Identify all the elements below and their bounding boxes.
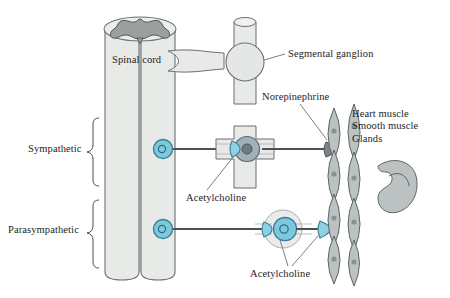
sympathetic-chain-tube-cap bbox=[234, 18, 256, 27]
label-norepinephrine: Norepinephrine bbox=[262, 91, 329, 103]
gland-organ-group bbox=[378, 161, 417, 213]
nerve-root-group bbox=[168, 50, 224, 72]
nerve-root-sheath bbox=[168, 50, 224, 72]
parasympathetic-preganglionic-nucleus bbox=[158, 225, 165, 232]
target-tissue-item: Smooth muscle bbox=[352, 120, 418, 132]
sympathetic-preganglionic-nucleus bbox=[158, 145, 165, 152]
gland-shape bbox=[378, 161, 417, 213]
sympathetic-postganglionic-nucleus bbox=[242, 144, 252, 154]
label-acetylcholine-preganglionic: Acetylcholine bbox=[186, 192, 246, 204]
label-sympathetic: Sympathetic bbox=[28, 143, 82, 155]
segmental-ganglion-body bbox=[226, 43, 264, 81]
sympathetic-brace bbox=[87, 118, 99, 186]
leader-segmental-ganglion bbox=[264, 54, 285, 60]
label-target-tissues: Heart muscle Smooth muscle Glands bbox=[352, 108, 418, 145]
target-tissue-item: Heart muscle bbox=[352, 108, 418, 120]
sympathetic-pathway-group bbox=[154, 126, 336, 188]
parasympathetic-pathway-group bbox=[154, 210, 331, 248]
leader-acetylcholine-pre bbox=[207, 156, 234, 190]
label-parasympathetic: Parasympathetic bbox=[8, 224, 79, 236]
parasympathetic-brace bbox=[87, 200, 99, 268]
segmental-ganglion-group bbox=[226, 18, 264, 105]
gray-matter-butterfly bbox=[110, 19, 169, 39]
autonomic-nervous-system-figure: Spinal cord Segmental ganglion Norepinep… bbox=[0, 0, 450, 298]
label-acetylcholine-postganglionic: Acetylcholine bbox=[250, 268, 310, 280]
target-tissue-item: Glands bbox=[352, 133, 418, 145]
parasympathetic-postganglionic-nucleus bbox=[280, 225, 288, 233]
label-segmental-ganglion: Segmental ganglion bbox=[288, 48, 374, 60]
label-spinal-cord: Spinal cord bbox=[112, 54, 161, 66]
spinal-cord-left-column bbox=[105, 31, 139, 280]
leader-norepinephrine bbox=[300, 104, 327, 140]
